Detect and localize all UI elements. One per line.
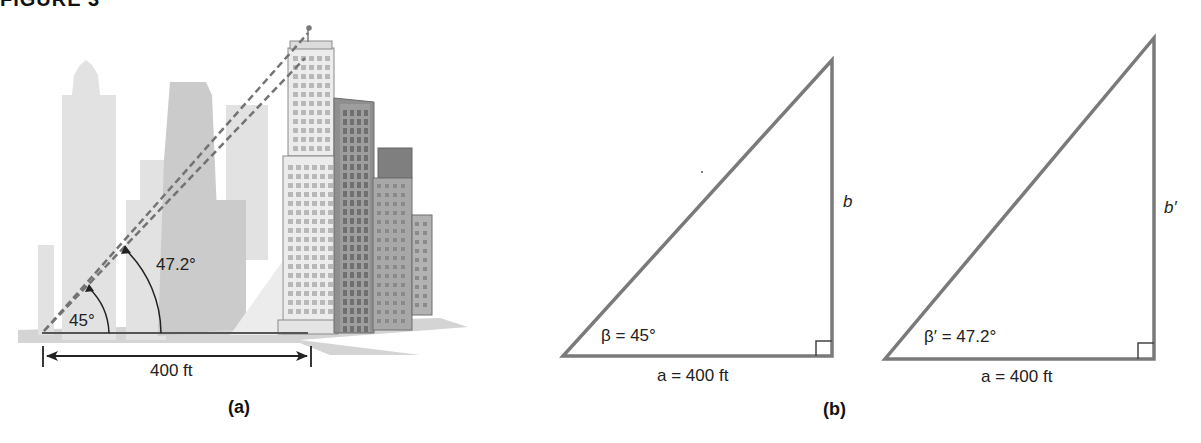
dark-building bbox=[334, 98, 374, 333]
side-label-b: b bbox=[843, 192, 852, 212]
right-buildings bbox=[373, 148, 432, 330]
triangle-47 bbox=[885, 38, 1154, 359]
triangle-45 bbox=[563, 60, 832, 356]
angle-label-47: 47.2° bbox=[156, 255, 196, 275]
side-label-b-prime: b′ bbox=[1164, 198, 1177, 218]
angle-label-beta: β = 45° bbox=[601, 326, 656, 346]
base-label-a-1: a = 400 ft bbox=[657, 366, 728, 386]
distance-label: 400 ft bbox=[150, 361, 193, 381]
panel-label-a: (a) bbox=[228, 397, 250, 418]
angle-label-beta-prime: β′ = 47.2° bbox=[924, 327, 996, 347]
base-label-a-2: a = 400 ft bbox=[981, 367, 1052, 387]
panel-label-b: (b) bbox=[823, 399, 846, 420]
angle-label-45: 45° bbox=[69, 311, 95, 331]
